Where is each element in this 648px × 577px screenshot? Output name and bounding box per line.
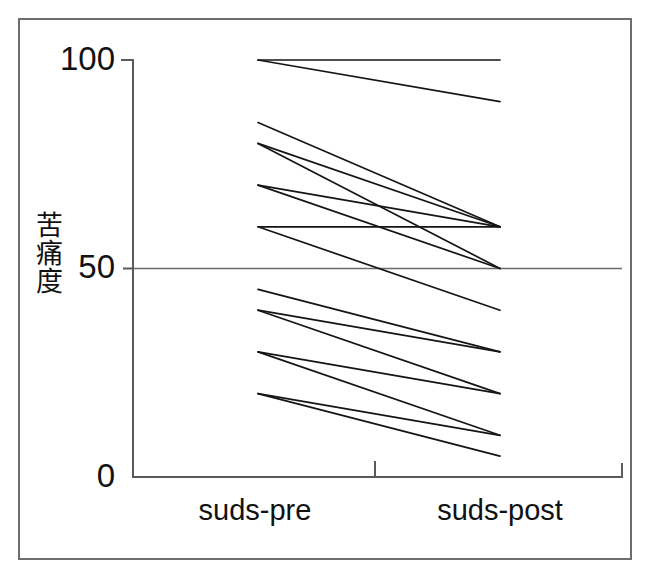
series-line-subject-14 <box>258 352 500 435</box>
series-line-subject-13 <box>258 352 500 394</box>
x-category-labels-group: suds-presuds-post <box>199 494 563 526</box>
x-category-label-post: suds-post <box>437 494 563 526</box>
series-line-subject-4 <box>258 143 500 226</box>
x-category-label-pre: suds-pre <box>199 494 312 526</box>
y-tick-label-0: 0 <box>97 457 115 494</box>
series-line-subject-3 <box>258 123 500 227</box>
figure-root: 苦痛度 100500 suds-presuds-post <box>0 0 648 577</box>
y-tick-labels-group: 100500 <box>60 40 115 494</box>
series-line-subject-15 <box>258 394 500 436</box>
x-axis-baseline <box>133 463 622 477</box>
series-line-subject-16 <box>258 394 500 457</box>
series-lines-group <box>258 60 500 456</box>
series-line-subject-6 <box>258 185 500 227</box>
series-line-subject-10 <box>258 289 500 352</box>
y-tick-label-50: 50 <box>78 248 115 285</box>
series-line-subject-2 <box>258 60 500 102</box>
plot-area: 100500 suds-presuds-post <box>0 0 648 577</box>
series-line-subject-11 <box>258 310 500 352</box>
y-tick-label-100: 100 <box>60 40 115 77</box>
series-line-subject-12 <box>258 310 500 393</box>
